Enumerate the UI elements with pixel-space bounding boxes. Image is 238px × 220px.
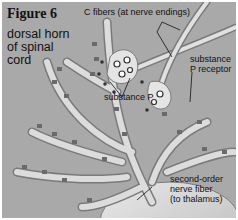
label-second-order-nerve-fiber: second-order nerve fiber (to thalamus) <box>170 174 223 204</box>
figure-title: Figure 6 <box>7 6 57 22</box>
label-substance-p-receptor: substance P receptor <box>190 54 231 74</box>
figure-panel: Figure 6 dorsal horn of spinal cord C fi… <box>2 2 236 218</box>
nerve-ending <box>107 50 138 84</box>
region-label: dorsal horn of spinal cord <box>7 28 77 67</box>
label-substance-p: substance P <box>104 92 154 102</box>
label-c-fibers: C fibers (at nerve endings) <box>84 7 190 17</box>
